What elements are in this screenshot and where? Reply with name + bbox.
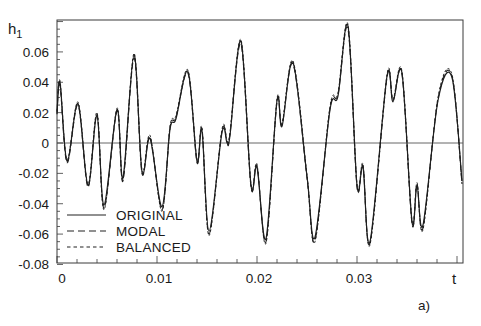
x-tick-label: 0.03	[346, 271, 372, 286]
legend-label-balanced: BALANCED	[116, 240, 191, 255]
y-axis-ticks	[57, 22, 63, 265]
x-tick-label: 0.01	[146, 271, 172, 286]
legend-label-modal: MODAL	[116, 224, 166, 239]
y-axis-tick-labels: 0.060.040.020-0.02-0.04-0.06-0.08	[18, 45, 49, 273]
y-tick-label: -0.02	[18, 166, 49, 181]
legend: ORIGINAL MODAL BALANCED	[67, 208, 191, 255]
y-tick-label: 0	[41, 136, 49, 151]
panel-label: a)	[418, 298, 430, 313]
y-tick-label: 0.04	[23, 75, 50, 90]
x-axis-title: t	[452, 270, 457, 287]
x-tick-label: 0.02	[246, 271, 272, 286]
y-tick-label: 0.06	[23, 45, 49, 60]
x-axis-ticks	[57, 256, 457, 263]
x-tick-label: 0	[58, 271, 66, 286]
x-axis-tick-labels: 00.010.020.03	[58, 271, 372, 286]
line-chart: 0.060.040.020-0.02-0.04-0.06-0.08 00.010…	[0, 0, 481, 326]
y-tick-label: -0.04	[18, 197, 49, 212]
y-tick-label: -0.08	[18, 257, 49, 272]
y-tick-label: -0.06	[18, 227, 49, 242]
y-axis-title: h1	[8, 20, 22, 40]
legend-label-original: ORIGINAL	[116, 208, 183, 223]
y-tick-label: 0.02	[23, 106, 49, 121]
